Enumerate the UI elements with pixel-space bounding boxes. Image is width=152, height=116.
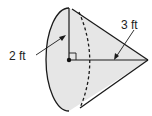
radius-label: 2 ft [9, 49, 26, 63]
center-point [67, 58, 71, 62]
height-label: 3 ft [121, 18, 138, 32]
cone-figure: 2 ft 3 ft [0, 0, 152, 116]
cone-diagram: 2 ft 3 ft [0, 0, 152, 116]
